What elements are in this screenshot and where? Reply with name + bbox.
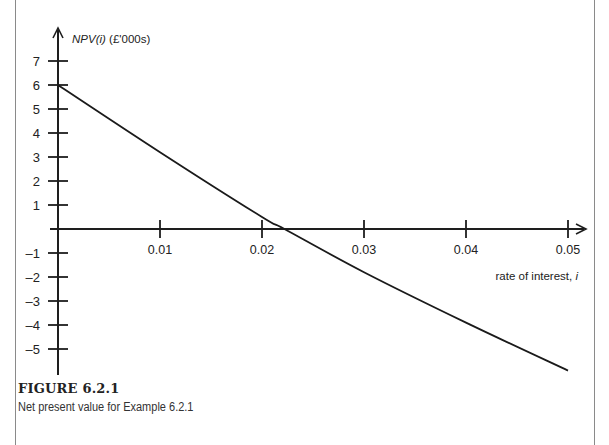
npv-chart: 7654321–1–2–3–4–50.010.020.030.040.05 NP…: [0, 0, 609, 445]
y-axis-label: NPV(i) (£'000s): [72, 33, 150, 45]
y-tick-label: –1: [26, 246, 40, 261]
y-tick-label: 3: [33, 150, 40, 165]
x-axis-label: rate of interest, i: [496, 270, 579, 282]
y-tick-label: –4: [26, 318, 40, 333]
axes: [50, 28, 586, 375]
tick-marks: 7654321–1–2–3–4–50.010.020.030.040.05: [26, 54, 581, 357]
y-tick-label: –5: [26, 342, 40, 357]
figure-caption: Net present value for Example 6.2.1: [18, 400, 193, 414]
npv-line: [58, 85, 568, 371]
y-tick-label: 2: [33, 174, 40, 189]
y-tick-label: 5: [33, 102, 40, 117]
figure-label: FIGURE 6.2.1: [18, 381, 120, 396]
y-tick-label: 4: [33, 126, 40, 141]
y-tick-label: –3: [26, 294, 40, 309]
x-tick-label: 0.03: [352, 243, 376, 257]
npv-curve: [58, 85, 568, 371]
x-tick-label: 0.02: [250, 243, 274, 257]
x-tick-label: 0.01: [148, 243, 172, 257]
y-tick-label: 1: [33, 198, 40, 213]
x-tick-label: 0.04: [454, 243, 478, 257]
y-tick-label: 7: [33, 54, 40, 69]
x-tick-label: 0.05: [556, 243, 580, 257]
y-tick-label: –2: [26, 270, 40, 285]
y-tick-label: 6: [33, 78, 40, 93]
